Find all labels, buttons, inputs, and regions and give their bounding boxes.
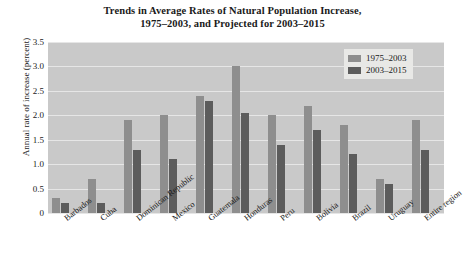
bar-group	[228, 42, 264, 213]
bar	[304, 106, 312, 213]
y-tick-label: 1.0	[14, 160, 44, 169]
bar	[349, 154, 357, 213]
bar-group	[264, 42, 300, 213]
legend-item: 2003–2015	[348, 64, 407, 76]
bar-group	[192, 42, 228, 213]
bar	[277, 145, 285, 213]
y-tick-label: 2.5	[14, 86, 44, 95]
bar-group	[120, 42, 156, 213]
bar	[88, 179, 96, 213]
y-tick-label: 0.5	[14, 184, 44, 193]
x-axis-tick-labels: BarbadosCubaDominican RepublicMexicoGuat…	[48, 213, 444, 276]
y-axis-tick-labels: 3.53.02.52.01.51.00.50	[14, 42, 44, 213]
chart-title-line-1: Trends in Average Rates of Natural Popul…	[0, 4, 465, 17]
bar	[340, 125, 348, 213]
bar	[241, 113, 249, 213]
bar	[313, 130, 321, 213]
chart-figure: Trends in Average Rates of Natural Popul…	[0, 0, 465, 276]
chart-title: Trends in Average Rates of Natural Popul…	[0, 4, 465, 30]
bar	[124, 120, 132, 213]
legend-swatch	[348, 67, 361, 74]
bar-group	[48, 42, 84, 213]
chart-legend: 1975–20032003–2015	[344, 49, 413, 79]
bar-group	[84, 42, 120, 213]
chart-title-line-2: 1975–2003, and Projected for 2003–2015	[0, 17, 465, 30]
bar	[421, 150, 429, 214]
y-tick-label: 0	[14, 209, 44, 218]
bar	[232, 66, 240, 213]
bar	[133, 150, 141, 214]
y-tick-label: 2.0	[14, 111, 44, 120]
bar	[196, 96, 204, 213]
y-tick-label: 3.0	[14, 62, 44, 71]
bar	[205, 101, 213, 213]
bar-group	[300, 42, 336, 213]
bar	[412, 120, 420, 213]
bar	[376, 179, 384, 213]
bar	[52, 198, 60, 213]
legend-item: 1975–2003	[348, 52, 407, 64]
legend-label: 1975–2003	[366, 53, 407, 64]
legend-label: 2003–2015	[366, 65, 407, 76]
legend-swatch	[348, 55, 361, 62]
bar-group	[408, 42, 444, 213]
y-tick-label: 3.5	[14, 38, 44, 47]
y-tick-label: 1.5	[14, 135, 44, 144]
bar	[385, 184, 393, 213]
